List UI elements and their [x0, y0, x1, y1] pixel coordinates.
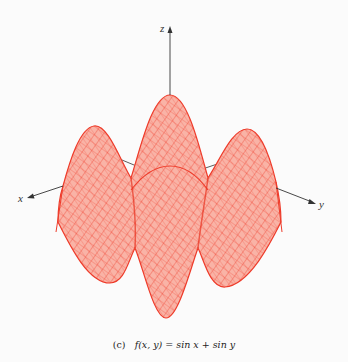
y-axis [276, 188, 316, 204]
surface-plot-figure: z x y (c) f(x, y) = sin x + sin y [0, 0, 348, 362]
caption-function: f(x, y) = sin x + sin y [135, 339, 236, 350]
z-axis [168, 26, 173, 95]
z-axis-label: z [160, 22, 164, 34]
caption-label: (c) [113, 339, 126, 350]
y-axis-arrow-icon [308, 199, 316, 204]
figure-caption: (c) f(x, y) = sin x + sin y [0, 339, 348, 350]
y-axis-label: y [319, 198, 324, 210]
x-axis-label: x [18, 192, 23, 204]
surface-mesh [56, 95, 282, 318]
surface-plot [0, 0, 348, 362]
x-axis-arrow-icon [27, 194, 35, 199]
z-axis-arrow-icon [168, 26, 173, 33]
x-axis [27, 186, 63, 199]
